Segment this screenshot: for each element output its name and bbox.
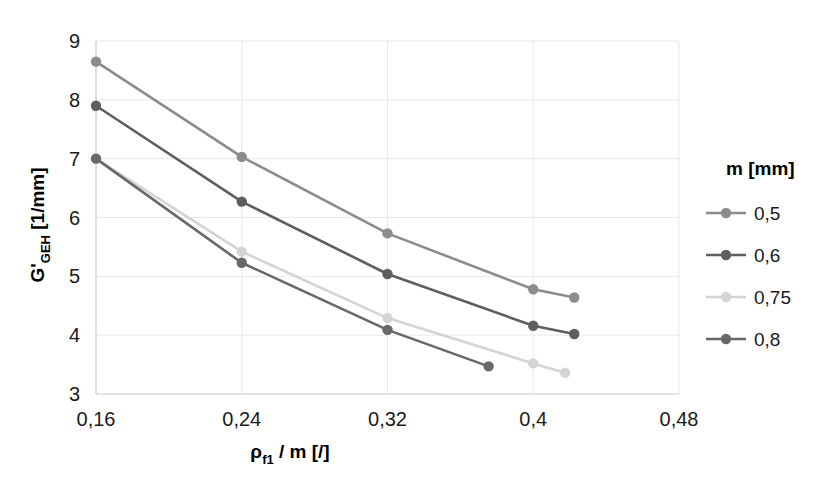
y-tick-label: 3 (69, 383, 80, 405)
legend-item-label: 0,8 (754, 329, 780, 350)
legend-marker-swatch (721, 292, 731, 302)
chart-background (0, 0, 834, 484)
data-point-marker (91, 101, 101, 111)
legend-item-label: 0,5 (754, 203, 780, 224)
y-tick-label: 6 (69, 207, 80, 229)
data-point-marker (382, 228, 392, 238)
y-tick-label: 5 (69, 265, 80, 287)
legend-marker-swatch (721, 334, 731, 344)
data-point-marker (569, 292, 579, 302)
legend-marker-swatch (721, 250, 731, 260)
data-point-marker (237, 196, 247, 206)
y-axis-title-rest: [1/mm] (27, 167, 48, 235)
y-tick-label: 7 (69, 148, 80, 170)
data-point-marker (91, 56, 101, 66)
x-tick-label: 0,16 (77, 408, 116, 430)
x-tick-label: 0,48 (660, 408, 699, 430)
data-point-marker (382, 313, 392, 323)
legend-item-label: 0,6 (754, 245, 780, 266)
y-tick-label: 4 (69, 324, 80, 346)
data-point-marker (560, 368, 570, 378)
x-axis-title-symbol: ρ (250, 441, 262, 462)
x-axis-title-rest: / m [/] (274, 441, 330, 462)
data-point-marker (528, 284, 538, 294)
data-point-marker (483, 361, 493, 371)
legend-item-label: 0,75 (754, 287, 791, 308)
data-point-marker (91, 153, 101, 163)
data-point-marker (382, 269, 392, 279)
chart-figure: 0,160,240,320,40,48 3456789 ρf1 / m [/] … (0, 0, 834, 484)
y-tick-label: 9 (69, 30, 80, 52)
data-point-marker (528, 358, 538, 368)
data-point-marker (382, 325, 392, 335)
legend-title: m [mm] (726, 158, 795, 179)
x-tick-label: 0,4 (519, 408, 547, 430)
y-tick-label: 8 (69, 89, 80, 111)
x-axis-title-subscript: f1 (262, 452, 274, 467)
y-axis-title-subscript: GEH (38, 235, 53, 263)
data-point-marker (237, 258, 247, 268)
data-point-marker (569, 329, 579, 339)
data-point-marker (528, 321, 538, 331)
data-point-marker (237, 246, 247, 256)
x-tick-label: 0,32 (368, 408, 407, 430)
line-chart-svg: 0,160,240,320,40,48 3456789 ρf1 / m [/] … (0, 0, 834, 484)
legend-marker-swatch (721, 208, 731, 218)
data-point-marker (237, 152, 247, 162)
x-tick-label: 0,24 (222, 408, 261, 430)
y-axis-title-symbol: G' (27, 263, 48, 282)
